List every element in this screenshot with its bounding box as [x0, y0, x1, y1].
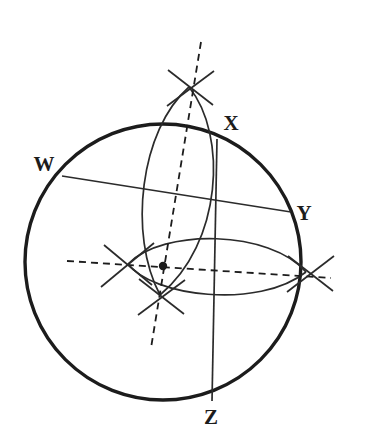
cross-equator-left [101, 243, 154, 287]
label-w: W [34, 152, 55, 176]
cross-north-pole [167, 70, 214, 106]
meridian-arc-right [160, 87, 214, 295]
sphere-diagram: W X Y Z [0, 0, 365, 446]
chord-w-y [62, 176, 291, 212]
sphere-center-dot [159, 262, 167, 270]
cross-equator-right [287, 256, 334, 292]
equatorial-axis-dashed [67, 261, 331, 278]
label-x: X [223, 111, 238, 135]
polar-axis-dashed [151, 42, 201, 348]
figure-canvas: W X Y Z [0, 0, 365, 446]
label-z: Z [204, 405, 218, 429]
label-y: Y [296, 201, 311, 225]
